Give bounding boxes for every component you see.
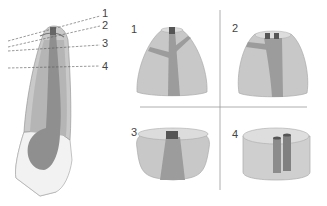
section-4-illustration xyxy=(243,128,310,180)
cut-label-3: 3 xyxy=(102,38,108,49)
section-2-illustration xyxy=(238,31,308,97)
section-3-illustration xyxy=(137,128,210,180)
quadrant-label-2: 2 xyxy=(232,23,238,34)
tooth-diagram xyxy=(0,0,327,206)
quadrant-label-3: 3 xyxy=(131,127,137,138)
quadrant-label-4: 4 xyxy=(232,129,238,140)
cut-label-2: 2 xyxy=(102,20,108,31)
tooth-longitudinal-section xyxy=(15,26,72,196)
quadrant-label-1: 1 xyxy=(131,24,137,35)
section-1-illustration xyxy=(137,27,207,96)
cut-label-4: 4 xyxy=(102,61,108,72)
cut-label-1: 1 xyxy=(102,8,108,19)
